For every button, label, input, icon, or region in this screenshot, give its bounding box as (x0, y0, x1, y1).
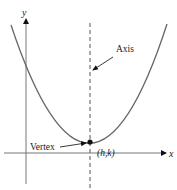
axis-label: Axis (116, 44, 134, 54)
y-axis-label: y (21, 7, 27, 18)
vertex-label: Vertex (30, 142, 55, 152)
vertex-coordinates-label: (h,k) (97, 148, 115, 159)
parabola-curve (11, 24, 167, 143)
x-axis-label: x (168, 148, 174, 159)
vertex-pointer-arrow (60, 143, 86, 147)
parabola-diagram: y x Axis Vertex (h,k) (0, 0, 177, 190)
vertex-point (87, 139, 92, 144)
axis-pointer-arrow (93, 57, 113, 70)
